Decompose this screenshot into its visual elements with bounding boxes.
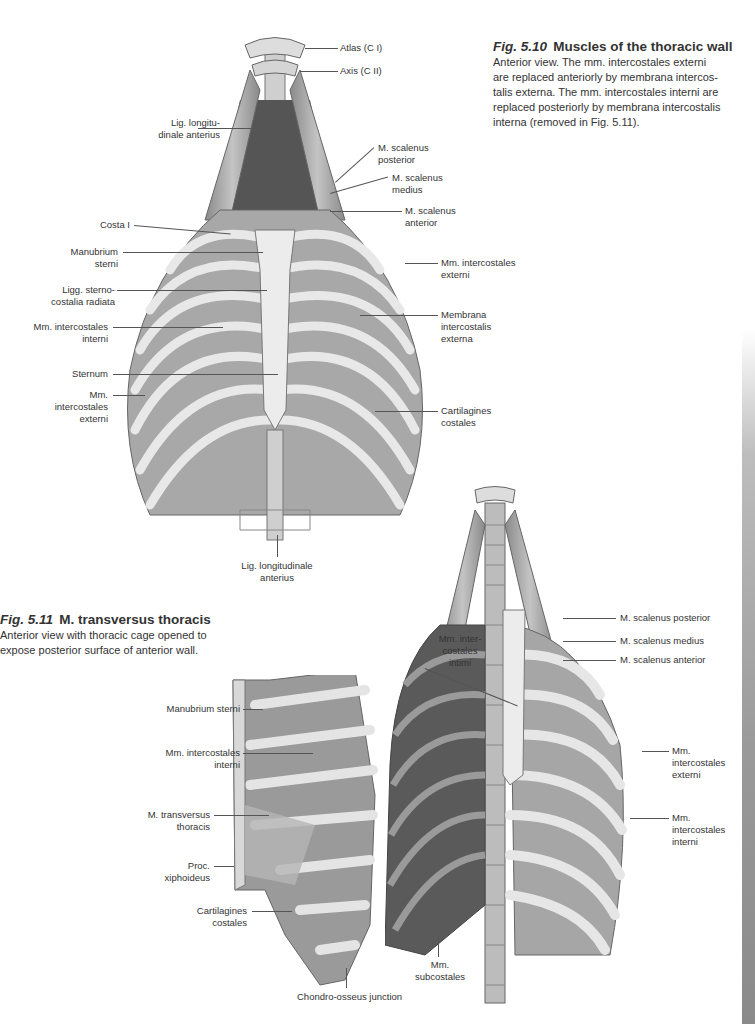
leader-line <box>563 618 616 619</box>
leader-line <box>563 660 616 661</box>
leader-line <box>330 211 402 212</box>
label-m-scalenus-anterior-5-11: M. scalenus anterior <box>620 654 706 666</box>
label-m-scalenus-posterior-5-11: M. scalenus posterior <box>620 612 710 624</box>
leader-line <box>214 815 269 816</box>
caption-line: Anterior view with thoracic cage opened … <box>0 628 260 643</box>
leader-line <box>252 911 292 912</box>
label-mm-subcostales: Mm. subcostales <box>405 959 475 983</box>
figure-number: Fig. 5.11 <box>0 612 53 627</box>
figure-5-10-caption: Fig. 5.10 Muscles of the thoracic wall A… <box>493 39 753 130</box>
leader-line <box>405 263 438 264</box>
posterior-wall-illustration <box>385 485 630 1015</box>
caption-line: are replaced anteriorly by membrana inte… <box>493 70 753 85</box>
label-manubrium-sterni-5-11: Manubrium sterni <box>100 703 240 715</box>
leader-line <box>123 252 263 253</box>
leader-line <box>113 327 223 328</box>
leader-line <box>113 374 278 375</box>
caption-line: talis externa. The mm. intercostales int… <box>493 85 753 100</box>
label-manubrium-sterni: Manubrium sterni <box>40 246 118 270</box>
label-axis: Axis (C II) <box>340 65 382 77</box>
label-mm-intercostales-intimi: Mm. inter- costales intimi <box>425 633 495 669</box>
figure-title: Muscles of the thoracic wall <box>553 39 732 54</box>
label-sternum: Sternum <box>40 368 108 380</box>
label-mm-intercostales-externi-5-11: Mm. intercostales externi <box>672 745 725 781</box>
label-m-scalenus-posterior: M. scalenus posterior <box>378 142 429 166</box>
label-cartilagines-costales-5-11: Cartilagines costales <box>170 905 247 929</box>
leader-line <box>563 641 616 642</box>
leader-line <box>300 71 338 72</box>
label-ligg-sternocostalia-radiata: Ligg. sterno- costalia radiata <box>30 284 115 308</box>
label-mm-intercostales-interni-5-11-right: Mm. intercostales interni <box>672 812 725 848</box>
leader-line <box>277 535 278 557</box>
leader-line <box>346 968 347 988</box>
label-mm-intercostales-externi-left: Mm. intercostales externi <box>30 389 108 425</box>
figure-5-11-caption: Fig. 5.11 M. transversus thoracis Anteri… <box>0 612 260 658</box>
label-m-transversus-thoracis: M. transversus thoracis <box>120 809 210 833</box>
leader-line <box>642 751 669 752</box>
caption-line: expose posterior surface of anterior wal… <box>0 643 260 658</box>
label-lig-longitudinale-anterius-lower: Lig. longitudinale anterius <box>227 560 327 584</box>
label-membrana-intercostalis-externa: Membrana intercostalis externa <box>441 309 491 345</box>
leader-line <box>305 48 338 49</box>
leader-line <box>360 315 438 316</box>
anterior-wall-illustration <box>225 675 385 995</box>
label-mm-intercostales-externi-right: Mm. intercostales externi <box>441 257 515 281</box>
label-lig-longitudinale-anterius-upper: Lig. longitu- dinale anterius <box>130 117 220 141</box>
figure-number: Fig. 5.10 <box>493 39 547 54</box>
label-proc-xiphoideus: Proc. xiphoideus <box>140 860 210 884</box>
leader-line <box>198 128 276 129</box>
leader-line <box>630 818 669 819</box>
label-m-scalenus-medius: M. scalenus medius <box>392 172 443 196</box>
figure-title: M. transversus thoracis <box>59 612 211 627</box>
leader-line <box>375 411 438 412</box>
leader-line <box>243 709 263 710</box>
label-atlas: Atlas (C I) <box>340 42 382 54</box>
textbook-page: Fig. 5.10 Muscles of the thoracic wall A… <box>0 0 755 1024</box>
label-cartilagines-costales: Cartilagines costales <box>441 405 491 429</box>
leader-line <box>214 866 234 867</box>
caption-line: replaced posteriorly by membrana interco… <box>493 100 753 115</box>
label-costa-i: Costa I <box>70 219 130 231</box>
label-mm-intercostales-interni: Mm. intercostales interni <box>20 321 108 345</box>
page-edge-shadow <box>742 330 755 1024</box>
label-m-scalenus-medius-5-11: M. scalenus medius <box>620 635 704 647</box>
caption-line: interna (removed in Fig. 5.11). <box>493 115 753 130</box>
thoracic-wall-illustration <box>110 10 440 550</box>
leader-line <box>243 753 313 754</box>
leader-line <box>113 395 145 396</box>
label-mm-intercostales-interni-5-11: Mm. intercostales interni <box>120 747 240 771</box>
label-m-scalenus-anterior: M. scalenus anterior <box>405 205 456 229</box>
caption-line: Anterior view. The mm. intercostales ext… <box>493 55 753 70</box>
leader-line <box>117 290 267 291</box>
leader-line <box>438 935 439 957</box>
